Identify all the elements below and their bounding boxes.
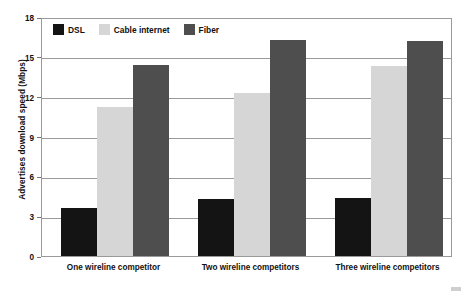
- legend-label-dsl: DSL: [68, 25, 85, 35]
- bar-cable-internet-group-1: [97, 107, 133, 256]
- bar-cable-internet-group-3: [371, 66, 407, 256]
- bar-chart: Advertises download speed (Mbps) 0369121…: [0, 0, 465, 294]
- legend: DSL Cable internet Fiber: [53, 24, 219, 35]
- y-axis-title: Advertises download speed (Mbps): [18, 30, 27, 230]
- bar-fiber-group-1: [133, 65, 169, 256]
- legend-item-dsl: DSL: [53, 24, 85, 35]
- legend-swatch-icon-dsl: [53, 24, 64, 35]
- y-axis-tick-label: 0: [0, 253, 34, 262]
- legend-item-fiber: Fiber: [184, 24, 219, 35]
- bar-cable-internet-group-2: [234, 93, 270, 256]
- y-axis-tick-label: 18: [0, 14, 34, 23]
- bar-dsl-group-1: [61, 208, 97, 256]
- legend-swatch-icon-cable-internet: [99, 24, 110, 35]
- bar-fiber-group-2: [270, 40, 306, 256]
- bar-dsl-group-3: [335, 198, 371, 256]
- x-axis-tick-label: One wireline competitor: [67, 263, 160, 272]
- bar-fiber-group-3: [407, 41, 443, 256]
- x-axis-tick-label: Two wireline competitors: [202, 263, 300, 272]
- legend-swatch-icon-fiber: [184, 24, 195, 35]
- legend-label-cable-internet: Cable internet: [114, 25, 170, 35]
- bar-dsl-group-2: [198, 199, 234, 256]
- gridline: [42, 58, 451, 59]
- plot-area: [41, 18, 452, 257]
- legend-label-fiber: Fiber: [199, 25, 219, 35]
- x-axis-tick-labels: One wireline competitorTwo wireline comp…: [41, 263, 452, 279]
- legend-item-cable-internet: Cable internet: [99, 24, 170, 35]
- page-corner-artifact: [451, 287, 461, 291]
- x-axis-tick-label: Three wireline competitors: [335, 263, 439, 272]
